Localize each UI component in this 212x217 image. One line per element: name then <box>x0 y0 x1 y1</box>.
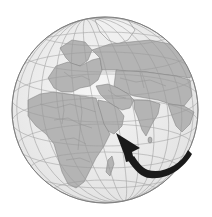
globe-illustration <box>0 0 212 217</box>
globe-svg <box>0 0 212 217</box>
sri-lanka <box>148 137 152 143</box>
